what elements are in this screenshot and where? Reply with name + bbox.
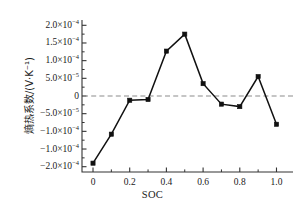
x-tick-label: 0.2: [110, 177, 150, 187]
x-tick-label: 1.0: [256, 177, 296, 187]
chart-figure: 2.0×10−41.5×10−41.0×10−45.0×10−50−5.0×10…: [0, 0, 305, 208]
x-tick-label: 0.6: [183, 177, 223, 187]
y-axis-title: 熵热系数/(V·K⁻¹): [21, 16, 36, 176]
x-axis-tick-labels: 00.20.40.60.81.0: [0, 0, 305, 208]
x-tick-label: 0.4: [146, 177, 186, 187]
x-tick-label: 0.8: [220, 177, 260, 187]
x-axis-title: SOC: [0, 189, 305, 200]
x-tick-label: 0: [73, 177, 113, 187]
